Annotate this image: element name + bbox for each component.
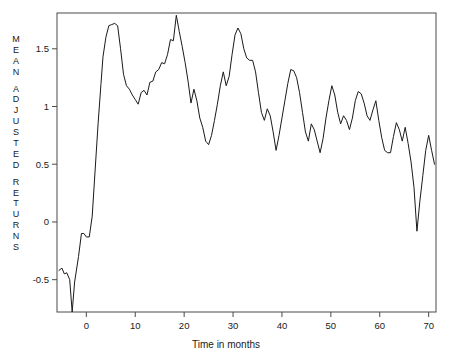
y-tick-label: 1 [44,101,49,112]
y-tick-label: 0.5 [36,159,49,170]
x-tick-label: 40 [277,320,288,331]
x-tick-label: 60 [374,320,385,331]
x-tick-label: 30 [228,320,239,331]
y-tick-label: -0.5 [33,274,49,285]
x-tick-label: 0 [84,320,89,331]
x-tick-label: 50 [326,320,337,331]
x-axis-ticks: 010203040506070 [84,312,434,331]
line-chart-plot: -0.500.511.5 010203040506070 [0,0,452,363]
y-axis-ticks: -0.500.511.5 [33,43,57,285]
x-tick-label: 10 [130,320,141,331]
series-line-mean-adjusted-returns [59,15,435,312]
x-tick-label: 70 [423,320,434,331]
x-tick-label: 20 [179,320,190,331]
chart-page: MEANADJUSTEDRETURNS -0.500.511.5 0102030… [0,0,452,363]
y-tick-label: 1.5 [36,43,49,54]
data-series-group [59,15,435,312]
y-tick-label: 0 [44,216,49,227]
x-axis-title: Time in months [0,339,452,350]
